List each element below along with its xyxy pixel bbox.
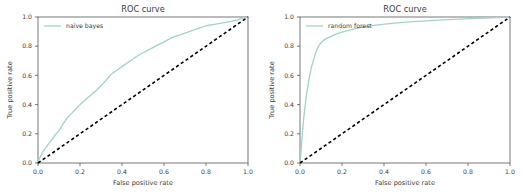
x-tick-label-right: 0.6 <box>421 168 431 175</box>
x-tick-label-right: 0.4 <box>379 168 389 175</box>
x-tick-label-right: 0.2 <box>337 168 347 175</box>
x-axis-title-right: False positive rate <box>375 179 435 187</box>
y-tick-label-left: 0.6 <box>22 72 32 79</box>
x-tick-label-left: 1.0 <box>243 168 253 175</box>
chart-surface-right: ROC curve0.00.20.40.60.81.00.00.20.40.60… <box>268 4 515 187</box>
roc-panel-random-forest: ROC curve0.00.20.40.60.81.00.00.20.40.60… <box>262 0 524 194</box>
y-axis-title-right: True positive rate <box>268 61 276 119</box>
y-tick-label-right: 1.0 <box>284 13 294 20</box>
x-tick-label-left: 0.0 <box>33 168 43 175</box>
x-tick-label-right: 0.8 <box>463 168 473 175</box>
y-tick-label-right: 0.8 <box>284 42 294 49</box>
y-tick-label-left: 0.0 <box>22 159 32 166</box>
roc-chart-right: ROC curve0.00.20.40.60.81.00.00.20.40.60… <box>262 0 524 194</box>
y-tick-label-left: 0.4 <box>22 101 32 108</box>
x-tick-label-right: 0.0 <box>295 168 305 175</box>
chart-title-left: ROC curve <box>121 4 164 14</box>
x-tick-label-left: 0.2 <box>75 168 85 175</box>
roc-figure-row: ROC curve0.00.20.40.60.81.00.00.20.40.60… <box>0 0 524 194</box>
y-tick-label-right: 0.4 <box>284 101 294 108</box>
x-tick-label-left: 0.6 <box>159 168 169 175</box>
y-tick-label-right: 0.6 <box>284 72 294 79</box>
y-tick-label-left: 0.8 <box>22 42 32 49</box>
roc-panel-naive-bayes: ROC curve0.00.20.40.60.81.00.00.20.40.60… <box>0 0 262 194</box>
legend-label-right: random forest <box>328 22 372 29</box>
y-axis-title-left: True positive rate <box>6 61 14 119</box>
legend-label-left: naive bayes <box>66 22 103 30</box>
x-tick-label-right: 1.0 <box>505 168 515 175</box>
x-axis-title-left: False positive rate <box>113 179 173 187</box>
chart-title-right: ROC curve <box>383 4 426 14</box>
roc-chart-left: ROC curve0.00.20.40.60.81.00.00.20.40.60… <box>0 0 262 194</box>
y-tick-label-left: 0.2 <box>22 130 32 137</box>
x-tick-label-left: 0.8 <box>201 168 211 175</box>
y-tick-label-right: 0.0 <box>284 159 294 166</box>
x-tick-label-left: 0.4 <box>117 168 127 175</box>
y-tick-label-left: 1.0 <box>22 13 32 20</box>
y-tick-label-right: 0.2 <box>284 130 294 137</box>
chart-surface-left: ROC curve0.00.20.40.60.81.00.00.20.40.60… <box>6 4 253 187</box>
